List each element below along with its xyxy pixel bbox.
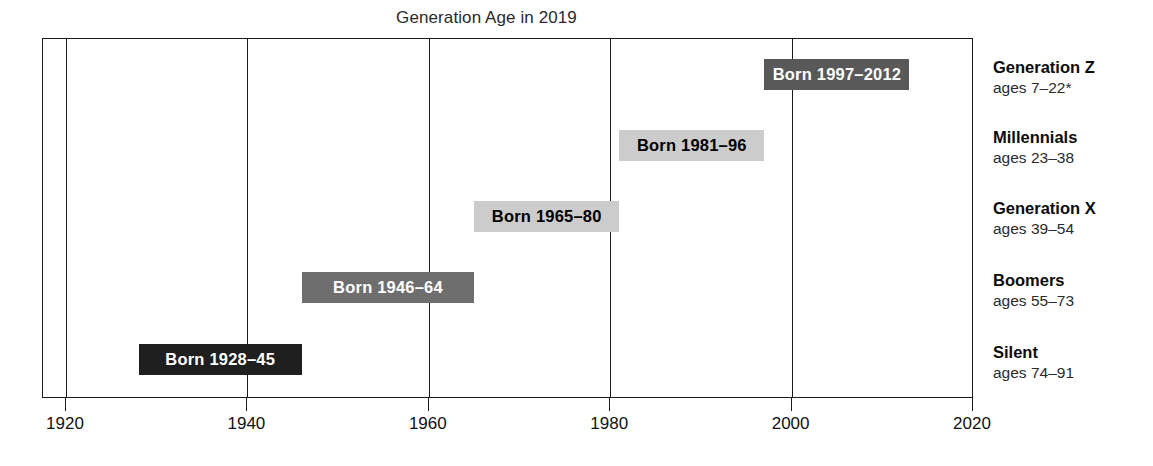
tick-label-1980: 1980 bbox=[590, 414, 628, 434]
generation-ages: ages 23–38 bbox=[993, 148, 1153, 167]
tick-mark-1960 bbox=[428, 398, 429, 411]
tick-label-2020: 2020 bbox=[953, 414, 991, 434]
tick-mark-1980 bbox=[609, 398, 610, 411]
bar-silent: Born 1928–45 bbox=[139, 344, 302, 375]
bar-label: Born 1965–80 bbox=[492, 207, 602, 226]
generation-ages: ages 7–22* bbox=[993, 78, 1153, 97]
tick-label-1920: 1920 bbox=[46, 414, 84, 434]
plot-area: Born 1997–2012Born 1981–96Born 1965–80Bo… bbox=[42, 38, 973, 398]
tick-mark-1940 bbox=[246, 398, 247, 411]
tick-label-1960: 1960 bbox=[409, 414, 447, 434]
generation-labels: Generation Zages 7–22*Millennialsages 23… bbox=[993, 38, 1153, 398]
tick-label-2000: 2000 bbox=[772, 414, 810, 434]
gridline-2000 bbox=[792, 39, 793, 397]
generation-name: Millennials bbox=[993, 128, 1153, 147]
generation-label-generation-x: Generation Xages 39–54 bbox=[993, 199, 1153, 238]
x-axis-line bbox=[42, 397, 973, 398]
bar-generation-z: Born 1997–2012 bbox=[764, 59, 909, 90]
generation-ages: ages 55–73 bbox=[993, 291, 1153, 310]
generation-age-chart: Generation Age in 2019 Born 1997–2012Bor… bbox=[0, 0, 1153, 466]
gridline-1960 bbox=[429, 39, 430, 397]
gridline-1920 bbox=[66, 39, 67, 397]
generation-name: Generation X bbox=[993, 199, 1153, 218]
generation-label-boomers: Boomersages 55–73 bbox=[993, 271, 1153, 310]
generation-name: Boomers bbox=[993, 271, 1153, 290]
bar-boomers: Born 1946–64 bbox=[302, 272, 474, 303]
bar-label: Born 1997–2012 bbox=[773, 65, 901, 84]
tick-mark-2000 bbox=[791, 398, 792, 411]
tick-label-1940: 1940 bbox=[227, 414, 265, 434]
generation-label-millennials: Millennialsages 23–38 bbox=[993, 128, 1153, 167]
generation-ages: ages 39–54 bbox=[993, 219, 1153, 238]
generation-label-generation-z: Generation Zages 7–22* bbox=[993, 58, 1153, 97]
generation-label-silent: Silentages 74–91 bbox=[993, 343, 1153, 382]
generation-name: Generation Z bbox=[993, 58, 1153, 77]
bar-generation-x: Born 1965–80 bbox=[474, 201, 619, 232]
bar-label: Born 1981–96 bbox=[637, 136, 747, 155]
bar-label: Born 1946–64 bbox=[333, 278, 443, 297]
bar-millennials: Born 1981–96 bbox=[619, 130, 764, 161]
chart-title: Generation Age in 2019 bbox=[0, 8, 973, 28]
tick-mark-1920 bbox=[65, 398, 66, 411]
tick-mark-2020 bbox=[972, 398, 973, 411]
bar-label: Born 1928–45 bbox=[165, 350, 275, 369]
generation-name: Silent bbox=[993, 343, 1153, 362]
generation-ages: ages 74–91 bbox=[993, 363, 1153, 382]
